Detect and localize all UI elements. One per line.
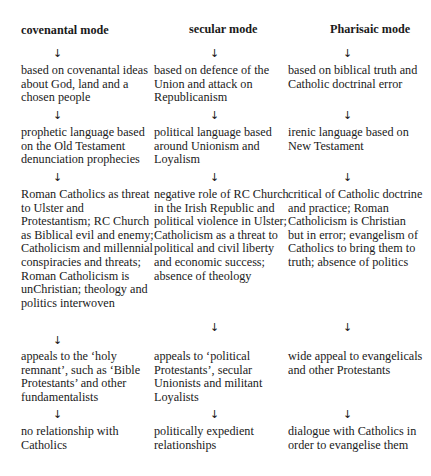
step-language: irenic language based on New Testament: [288, 126, 423, 153]
step-view-of-catholicism: critical of Catholic doctrine and practi…: [288, 188, 423, 270]
column-heading: secular mode: [189, 23, 258, 37]
down-arrow-icon: ↓: [53, 335, 62, 346]
step-relationship: no relationship with Catholics: [21, 425, 156, 452]
down-arrow-icon: ↓: [210, 48, 219, 59]
step-view-of-catholicism: negative role of RC Church in the Irish …: [154, 188, 289, 283]
column-heading: Pharisaic mode: [330, 23, 410, 37]
down-arrow-icon: ↓: [53, 110, 62, 121]
down-arrow-icon: ↓: [53, 409, 62, 420]
step-appeal: wide appeal to evangelicals and other Pr…: [288, 350, 423, 377]
step-basis: based on biblical truth and Catholic doc…: [288, 64, 423, 91]
step-basis: based on defence of the Union and attack…: [154, 64, 289, 105]
step-relationship: politically expedient relationships: [154, 425, 289, 452]
down-arrow-icon: ↓: [210, 409, 219, 420]
down-arrow-icon: ↓: [53, 172, 62, 183]
down-arrow-icon: ↓: [53, 48, 62, 59]
down-arrow-icon: ↓: [343, 322, 352, 333]
down-arrow-icon: ↓: [343, 172, 352, 183]
step-relationship: dialogue with Catholics in order to evan…: [288, 425, 423, 452]
column-heading: covenantal mode: [21, 24, 109, 38]
step-appeal: appeals to ‘political Protestants’, secu…: [154, 350, 289, 404]
down-arrow-icon: ↓: [210, 172, 219, 183]
step-view-of-catholicism: Roman Catholics as threat to Ulster and …: [21, 188, 156, 310]
down-arrow-icon: ↓: [343, 110, 352, 121]
step-language: prophetic language based on the Old Test…: [21, 126, 156, 167]
down-arrow-icon: ↓: [343, 409, 352, 420]
down-arrow-icon: ↓: [210, 110, 219, 121]
step-appeal: appeals to the ‘holy remnant’, such as ‘…: [21, 350, 156, 404]
down-arrow-icon: ↓: [210, 322, 219, 333]
step-language: political language based around Unionism…: [154, 126, 289, 167]
step-basis: based on covenantal ideas about God, lan…: [21, 64, 156, 105]
down-arrow-icon: ↓: [343, 48, 352, 59]
